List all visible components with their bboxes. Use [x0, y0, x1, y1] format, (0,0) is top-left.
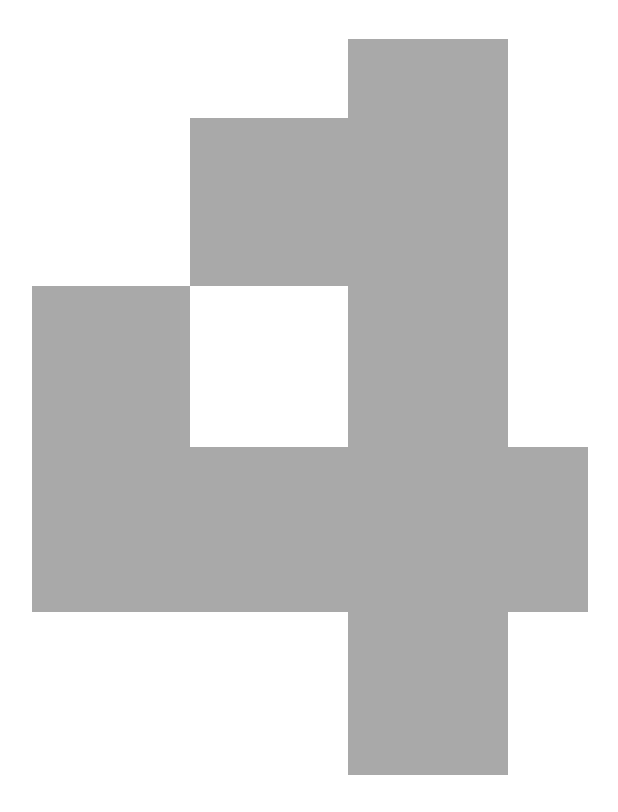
interlocking-blocks-figure	[0, 0, 618, 812]
block-vertical-center-bar	[348, 39, 508, 775]
block-right-side	[508, 447, 588, 612]
block-upper-middle	[190, 118, 348, 286]
cutout-center-square-hole	[190, 286, 348, 447]
figure-canvas	[0, 0, 618, 812]
